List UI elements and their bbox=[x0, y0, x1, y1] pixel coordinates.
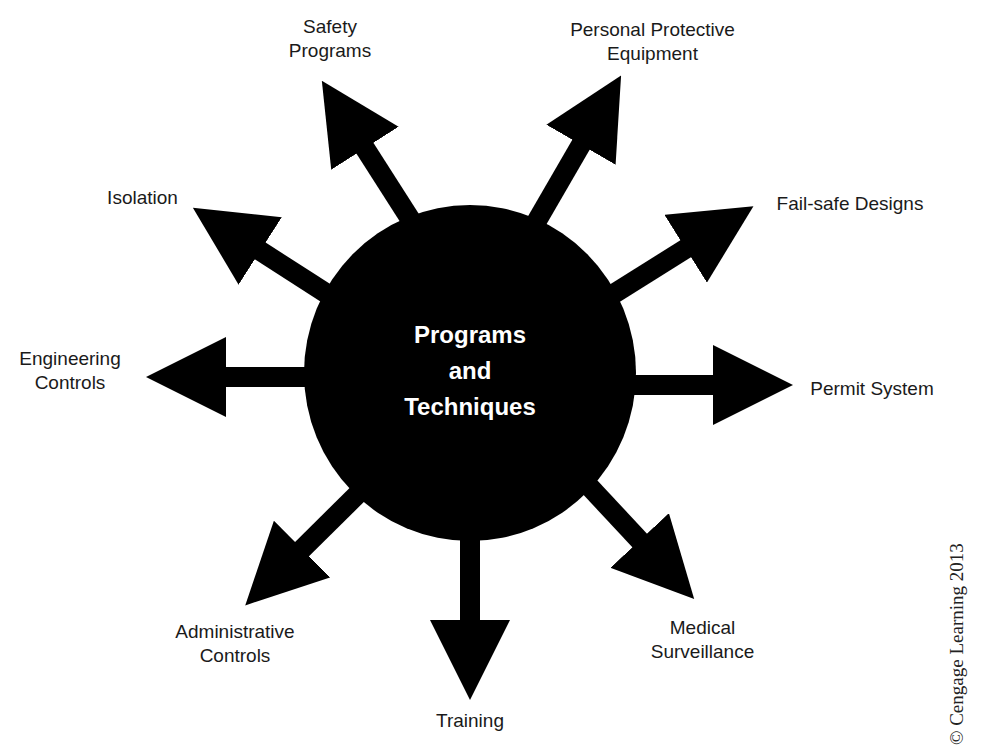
label-personal-protective-equipment: Personal Protective Equipment bbox=[540, 18, 765, 66]
label-isolation: Isolation bbox=[90, 186, 195, 210]
label-engineering-controls: Engineering Controls bbox=[5, 347, 135, 395]
label-permit-system: Permit System bbox=[792, 377, 952, 401]
center-label: Programs and Techniques bbox=[340, 317, 600, 425]
label-line: Engineering bbox=[5, 347, 135, 371]
label-fail-safe-designs: Fail-safe Designs bbox=[755, 192, 945, 216]
label-safety-programs: Safety Programs bbox=[265, 15, 395, 63]
center-label-line1: Programs bbox=[340, 317, 600, 353]
label-line: Administrative bbox=[155, 620, 315, 644]
center-label-line2: and bbox=[340, 353, 600, 389]
label-line: Permit System bbox=[792, 377, 952, 401]
label-line: Programs bbox=[265, 39, 395, 63]
label-administrative-controls: Administrative Controls bbox=[155, 620, 315, 668]
label-line: Isolation bbox=[90, 186, 195, 210]
label-line: Medical bbox=[630, 616, 775, 640]
label-line: Training bbox=[410, 709, 530, 733]
copyright-notice: © Cengage Learning 2013 bbox=[946, 543, 968, 745]
label-line: Controls bbox=[155, 644, 315, 668]
center-label-line3: Techniques bbox=[340, 389, 600, 425]
label-line: Surveillance bbox=[630, 640, 775, 664]
label-line: Controls bbox=[5, 371, 135, 395]
label-training: Training bbox=[410, 709, 530, 733]
label-line: Equipment bbox=[540, 42, 765, 66]
label-line: Personal Protective bbox=[540, 18, 765, 42]
label-line: Fail-safe Designs bbox=[755, 192, 945, 216]
label-medical-surveillance: Medical Surveillance bbox=[630, 616, 775, 664]
label-line: Safety bbox=[265, 15, 395, 39]
